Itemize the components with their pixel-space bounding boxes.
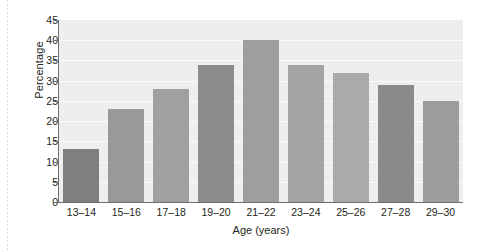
y-axis-tick-mark xyxy=(53,20,58,21)
x-axis-tick-label: 15–16 xyxy=(112,206,141,219)
bar xyxy=(108,109,144,202)
bar xyxy=(333,73,369,202)
bar xyxy=(423,101,459,202)
x-axis-tick-label: 17–18 xyxy=(157,206,186,219)
y-axis-tick-mark xyxy=(53,60,58,61)
bar xyxy=(153,89,189,202)
x-axis-tick-label: 27–28 xyxy=(381,206,410,219)
x-axis-tick-label: 25–26 xyxy=(336,206,365,219)
bar xyxy=(243,40,279,202)
y-axis-tick-mark xyxy=(53,162,58,163)
y-axis-tick-mark xyxy=(53,101,58,102)
x-axis-tick-labels: 13–1415–1617–1819–2021–2223–2425–2627–28… xyxy=(59,206,463,222)
y-axis-tick-mark xyxy=(53,81,58,82)
bar xyxy=(198,65,234,203)
bar-chart-figure: Percentage 051015202530354045 13–1415–16… xyxy=(0,0,486,252)
x-axis-line xyxy=(58,202,463,203)
bar xyxy=(288,65,324,203)
y-axis-tick-mark xyxy=(53,141,58,142)
x-axis-tick-label: 19–20 xyxy=(202,206,231,219)
x-axis-tick-label: 29–30 xyxy=(426,206,455,219)
y-axis-tick-mark xyxy=(53,202,58,203)
bar-series xyxy=(59,20,463,202)
y-axis-tick-labels: 051015202530354045 xyxy=(34,0,58,252)
bar xyxy=(378,85,414,202)
x-axis-tick-label: 13–14 xyxy=(67,206,96,219)
y-axis-tick-mark xyxy=(53,40,58,41)
x-axis-title: Age (years) xyxy=(59,224,463,236)
x-axis-tick-label: 21–22 xyxy=(246,206,275,219)
bar xyxy=(63,149,99,202)
x-axis-tick-label: 23–24 xyxy=(291,206,320,219)
y-axis-tick-mark xyxy=(53,182,58,183)
y-axis-tick-mark xyxy=(53,121,58,122)
